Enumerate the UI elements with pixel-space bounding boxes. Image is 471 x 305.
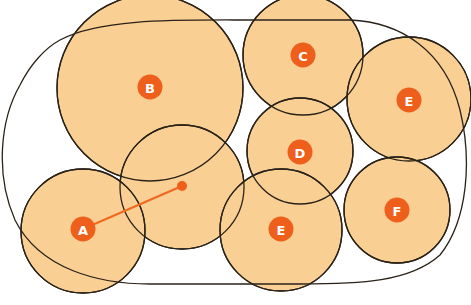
badge-label: A	[78, 223, 88, 238]
badge-d: D	[288, 140, 313, 165]
venn-diagram: BCEDAEF	[0, 0, 471, 305]
badge-c: C	[291, 43, 316, 68]
badge-a: A	[71, 217, 96, 242]
badge-label: B	[145, 81, 155, 96]
badge-label: D	[295, 146, 306, 161]
badge-e: E	[269, 217, 294, 242]
badge-label: C	[298, 49, 308, 64]
circle-fills	[21, 0, 471, 293]
badge-f: F	[385, 198, 410, 223]
badge-label: E	[405, 94, 414, 109]
connector-end-dot	[177, 181, 187, 191]
diagram-canvas: BCEDAEF	[0, 0, 471, 305]
badge-label: F	[393, 204, 402, 219]
badge-e: E	[397, 88, 422, 113]
badge-label: E	[277, 223, 286, 238]
badge-b: B	[138, 75, 163, 100]
